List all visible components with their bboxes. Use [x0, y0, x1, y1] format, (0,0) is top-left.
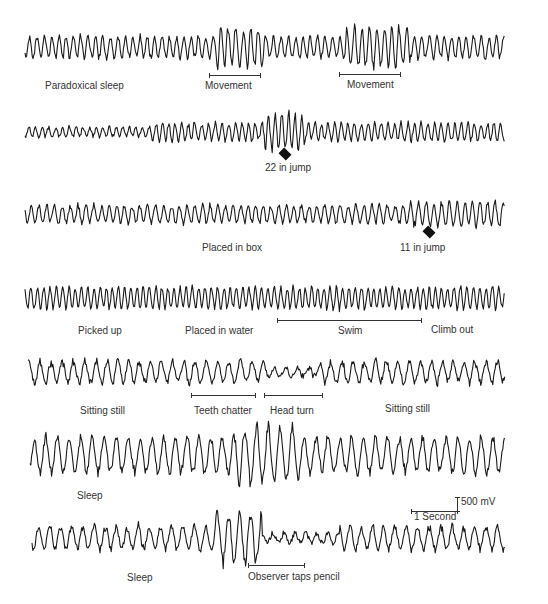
- label-swim: Swim: [338, 326, 362, 336]
- label-climb-out: Climb out: [431, 325, 473, 335]
- label-sitting-still-2: Sitting still: [385, 404, 430, 414]
- label-11-in-jump: 11 in jump: [400, 243, 445, 253]
- label-placed-in-water: Placed in water: [185, 326, 253, 336]
- label-picked-up: Picked up: [78, 326, 122, 336]
- label-1-second: 1 Second: [414, 512, 456, 522]
- label-movement-1: Movement: [205, 81, 252, 91]
- trace-6: [30, 421, 504, 487]
- swim-bar: [278, 320, 421, 321]
- label-sleep-2: Sleep: [127, 573, 153, 583]
- movement-bar-1: [210, 75, 260, 76]
- head-turn-bar: [265, 395, 322, 396]
- label-head-turn: Head turn: [270, 406, 314, 416]
- label-500-mv: 500 mV: [461, 497, 495, 507]
- trace-4: [25, 285, 504, 312]
- label-paradoxical-sleep: Paradoxical sleep: [45, 81, 124, 91]
- label-movement-2: Movement: [347, 80, 394, 90]
- trace-2: [25, 110, 504, 153]
- label-sleep-1: Sleep: [77, 491, 103, 501]
- trace-5: [28, 358, 505, 387]
- trace-1: [25, 24, 504, 71]
- observer-taps-pencil-bar: [249, 565, 304, 566]
- label-teeth-chatter: Teeth chatter: [194, 406, 252, 416]
- label-observer-taps-pencil: Observer taps pencil: [248, 572, 340, 582]
- label-sitting-still-1: Sitting still: [80, 406, 125, 416]
- label-placed-in-box: Placed in box: [202, 243, 262, 253]
- teeth-chatter-bar: [192, 395, 255, 396]
- trace-3: [25, 200, 504, 229]
- label-22-in-jump: 22 in jump: [265, 163, 311, 173]
- movement-bar-2: [340, 74, 400, 75]
